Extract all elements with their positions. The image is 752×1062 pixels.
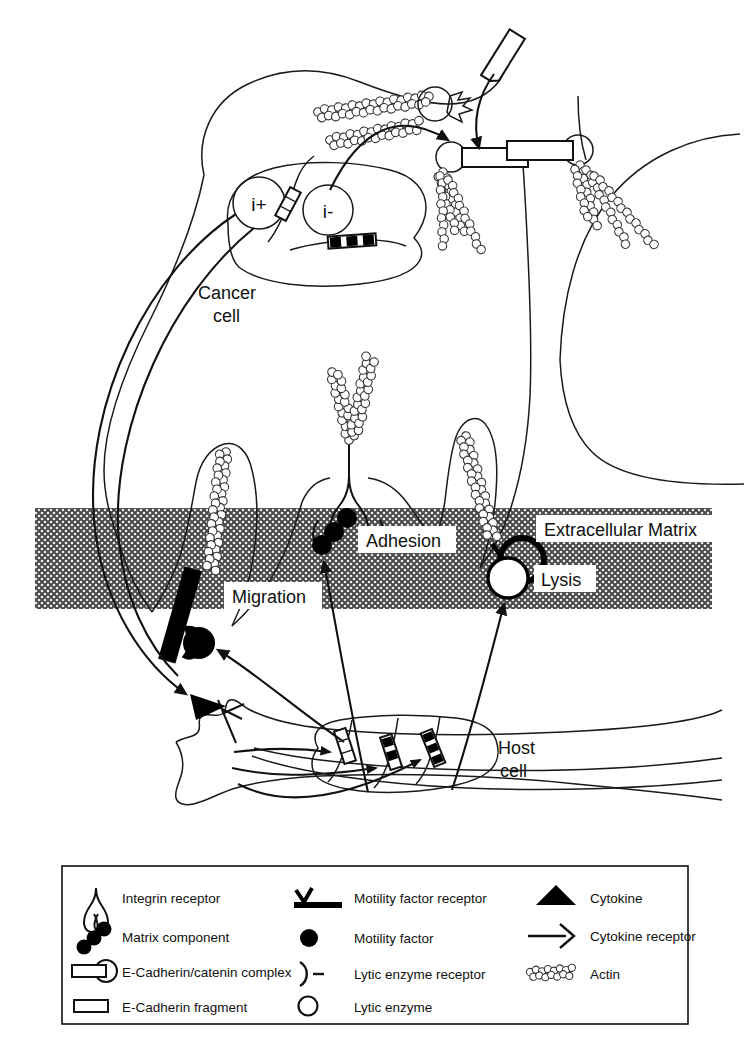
host-cell-label-line2: cell: [500, 761, 527, 781]
cancer-cell-label-line1: Cancer: [198, 283, 256, 303]
label-lysis: Lysis: [534, 565, 596, 592]
gene-i-plus-label: i+: [251, 194, 266, 215]
legend-label-actin: Actin: [590, 967, 620, 982]
legend-label-integrin-receptor: Integrin receptor: [122, 891, 221, 906]
invasion-diagram: i+ i- Cancer cell: [0, 0, 752, 1062]
legend-label-cytokine-receptor: Cytokine receptor: [590, 929, 696, 944]
adhesion-text: Adhesion: [366, 531, 441, 551]
label-extracellular-matrix: Extracellular Matrix: [536, 515, 718, 542]
legend-panel: Integrin receptor Matrix component E-Cad…: [62, 866, 696, 1024]
legend-label-cytokine: Cytokine: [590, 891, 643, 906]
legend-icon-motility-factor: [300, 929, 318, 947]
migration-text: Migration: [232, 587, 306, 607]
label-migration: Migration: [224, 582, 322, 609]
legend-label-lytic-enzyme-receptor: Lytic enzyme receptor: [354, 967, 486, 982]
label-adhesion: Adhesion: [358, 526, 456, 553]
host-cell-label-line1: Host: [498, 738, 535, 758]
legend-label-motility-factor-receptor: Motility factor receptor: [354, 891, 487, 906]
legend-label-matrix-component: Matrix component: [122, 930, 230, 945]
gene-i-minus-label: i-: [323, 201, 334, 222]
diagram-canvas: i+ i- Cancer cell: [0, 0, 752, 1062]
motility-factor-ligand: [183, 627, 215, 659]
legend-label-e-cadherin-catenin-complex: E-Cadherin/catenin complex: [122, 965, 292, 980]
extracellular-matrix-text: Extracellular Matrix: [544, 520, 697, 540]
legend-icon-lytic-enzyme: [299, 997, 318, 1016]
lytic-enzyme: [488, 558, 528, 598]
cancer-cell-label-line2: cell: [213, 306, 240, 326]
legend-label-motility-factor: Motility factor: [354, 931, 434, 946]
legend-label-e-cadherin-fragment: E-Cadherin fragment: [122, 1000, 248, 1015]
lysis-text: Lysis: [541, 570, 581, 590]
legend-label-lytic-enzyme: Lytic enzyme: [354, 1000, 432, 1015]
legend-icon-e-cadherin-fragment: [74, 1000, 108, 1012]
